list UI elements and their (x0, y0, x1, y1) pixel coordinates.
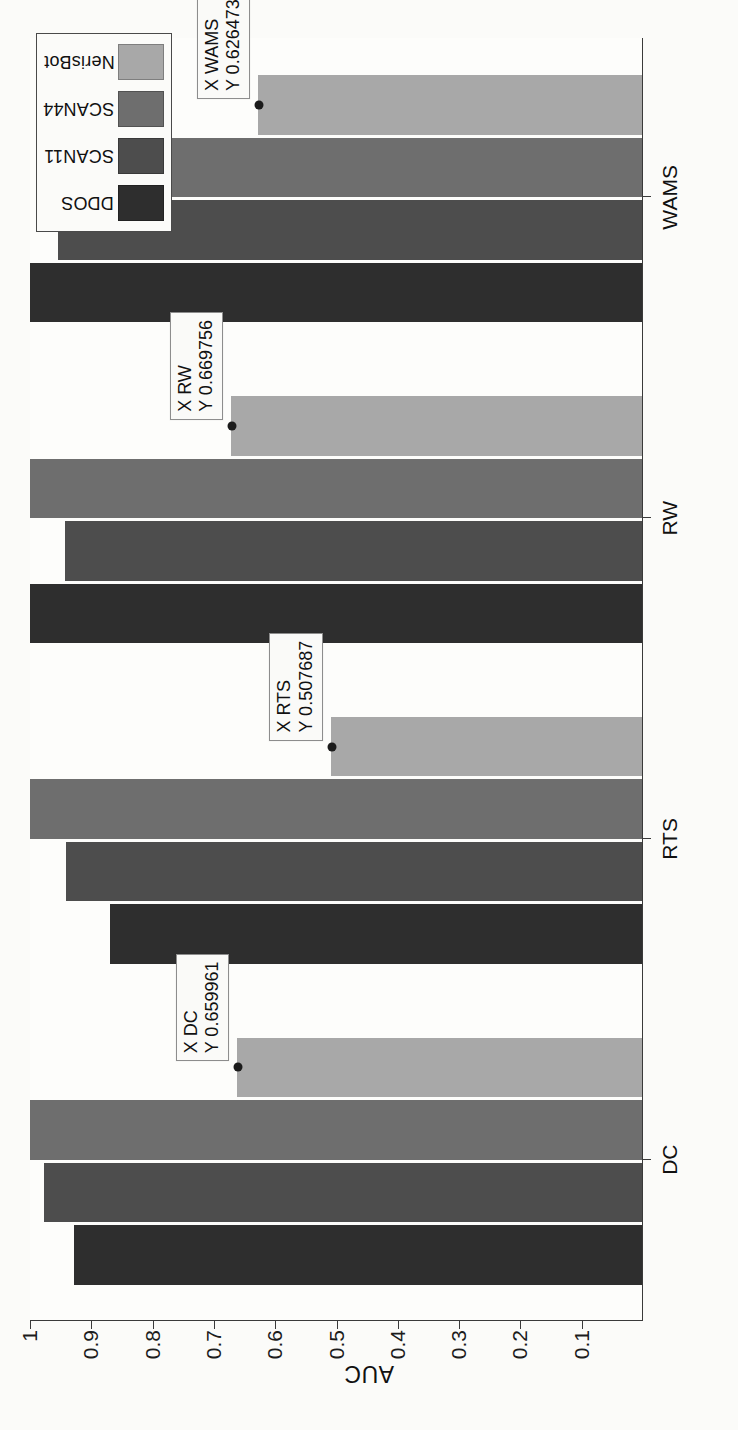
y-axis-tick (459, 1320, 460, 1329)
bar-rts-scan44[interactable] (30, 779, 642, 839)
y-axis-tick-label: 0.5 (325, 1330, 349, 1359)
datatip-x-line: X WAMS (202, 0, 223, 91)
y-axis-tick-label: 0.6 (263, 1330, 287, 1359)
bar-dc-ddos[interactable] (74, 1225, 642, 1285)
legend-swatch (118, 91, 164, 127)
bar-rts-nerisbot[interactable] (331, 717, 642, 777)
category-axis-tick (642, 838, 651, 839)
datatip-y-line: Y 0.507687 (296, 641, 317, 733)
bar-dc-nerisbot[interactable] (237, 1038, 642, 1098)
category-axis-label-wams: WAMS (658, 165, 682, 230)
y-axis-tick-label: 0.8 (141, 1330, 165, 1359)
datatip-marker-wams (254, 101, 263, 110)
legend-label: SCAN44 (43, 99, 114, 120)
legend-label: DDOS (61, 193, 114, 214)
datatip-marker-dc (234, 1063, 243, 1072)
legend-item-ddos[interactable]: DDOS (61, 182, 164, 224)
y-axis-tick-label: 0.2 (508, 1330, 532, 1359)
legend-swatch (118, 138, 164, 174)
y-axis-tick-label: 0.1 (570, 1330, 594, 1359)
datatip-y-line: Y 0.626473 (223, 0, 244, 91)
datatip-y-line: Y 0.659961 (202, 962, 223, 1054)
legend-item-scan11[interactable]: SCAN11 (44, 135, 164, 177)
y-axis-tick-label: 0.7 (202, 1330, 226, 1359)
legend-item-scan44[interactable]: SCAN44 (43, 88, 164, 130)
category-axis-tick (642, 1159, 651, 1160)
y-axis-tick (275, 1320, 276, 1329)
category-axis-label-dc: DC (658, 1144, 682, 1174)
bar-rw-ddos[interactable] (30, 584, 642, 644)
datatip-dc[interactable]: X DCY 0.659961 (176, 954, 229, 1062)
y-axis-tick (91, 1320, 92, 1329)
datatip-rts[interactable]: X RTSY 0.507687 (269, 633, 322, 741)
y-axis-tick (30, 1320, 31, 1329)
datatip-x-line: X RTS (274, 641, 295, 733)
datatip-x-line: X RW (175, 320, 196, 412)
y-axis-tick-label: 0.4 (386, 1330, 410, 1359)
y-axis-tick-label: 0.9 (79, 1330, 103, 1359)
legend-item-nerisbot[interactable]: NerisBot (44, 41, 165, 83)
datatip-x-line: X DC (181, 962, 202, 1054)
bar-rw-scan11[interactable] (65, 521, 642, 581)
legend-label: NerisBot (44, 52, 115, 73)
bar-chart-figure: AUC 10.90.80.70.60.50.40.30.20.1DCRTSRWW… (16, 17, 722, 1413)
datatip-y-line: Y 0.669756 (196, 320, 217, 412)
bar-wams-nerisbot[interactable] (258, 75, 642, 135)
y-axis-title: AUC (344, 1360, 394, 1387)
datatip-marker-rw (228, 421, 237, 430)
legend-swatch (118, 44, 164, 80)
legend-swatch (118, 185, 164, 221)
y-axis-tick (582, 1320, 583, 1329)
datatip-rw[interactable]: X RWY 0.669756 (170, 312, 223, 420)
bar-dc-scan44[interactable] (30, 1100, 642, 1160)
y-axis-tick (337, 1320, 338, 1329)
category-axis-tick (642, 517, 651, 518)
y-axis-tick (398, 1320, 399, 1329)
y-axis-tick-label: 0.3 (447, 1330, 471, 1359)
legend-label: SCAN11 (44, 146, 114, 167)
y-axis-tick (214, 1320, 215, 1329)
category-axis-tick (642, 196, 651, 197)
y-axis-tick-label: 1 (18, 1330, 42, 1342)
y-axis-tick (520, 1320, 521, 1329)
bar-wams-ddos[interactable] (30, 263, 642, 323)
category-axis-label-rts: RTS (658, 818, 682, 860)
y-axis-tick (153, 1320, 154, 1329)
datatip-wams[interactable]: X WAMSY 0.626473 (197, 0, 250, 99)
datatip-marker-rts (327, 742, 336, 751)
bar-dc-scan11[interactable] (44, 1163, 642, 1223)
bar-rts-scan11[interactable] (66, 842, 642, 902)
category-axis-label-rw: RW (658, 501, 682, 536)
legend[interactable]: DDOSSCAN11SCAN44NerisBot (36, 33, 172, 232)
figure-rotated-container: AUC 10.90.80.70.60.50.40.30.20.1DCRTSRWW… (16, 17, 722, 1413)
bar-rw-scan44[interactable] (30, 459, 642, 519)
bar-rw-nerisbot[interactable] (231, 396, 642, 456)
